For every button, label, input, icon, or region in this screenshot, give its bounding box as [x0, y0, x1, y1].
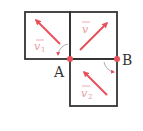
vector-v2-arrow: [84, 72, 107, 95]
svg-text:v: v: [82, 23, 89, 36]
square-top-left: [25, 12, 70, 59]
vector-diagram: v 1 v v 2 A B: [0, 0, 143, 131]
vector-v2-label: v 2: [81, 86, 92, 101]
svg-text:2: 2: [88, 93, 92, 101]
point-a: [67, 56, 73, 62]
rotation-arc-a: [58, 44, 68, 55]
svg-text:v: v: [34, 40, 41, 53]
vector-v1-label: v 1: [34, 40, 45, 54]
point-b: [114, 56, 120, 62]
rotation-arc-b: [104, 62, 114, 72]
svg-text:v: v: [81, 87, 88, 100]
svg-text:1: 1: [41, 46, 45, 54]
point-b-label: B: [122, 52, 132, 68]
vector-v-label: v: [82, 22, 90, 36]
point-a-label: A: [53, 64, 65, 80]
